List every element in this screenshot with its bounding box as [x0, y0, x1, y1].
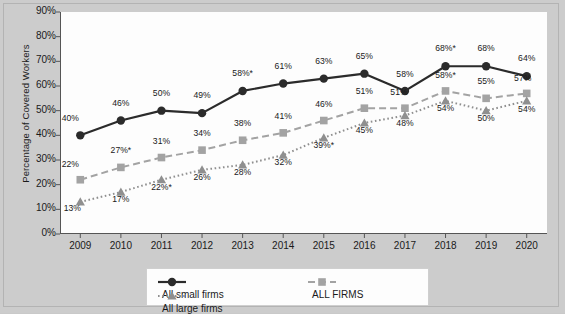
data-label: 61%	[275, 61, 292, 71]
data-label: 50%	[478, 113, 495, 123]
data-label: 46%	[112, 98, 129, 108]
data-label: 54%	[437, 103, 454, 113]
data-label: 50%	[153, 88, 170, 98]
data-point-marker	[482, 62, 490, 70]
legend-swatch	[307, 276, 337, 288]
data-label: 17%	[112, 194, 129, 204]
legend-label: ALL FIRMS	[312, 289, 363, 300]
data-point-marker	[198, 146, 206, 154]
data-point-marker	[320, 117, 328, 125]
data-point-marker	[117, 116, 125, 124]
chart-legend: All small firmsALL FIRMSAll large firms	[146, 268, 429, 306]
data-label: 58%	[396, 69, 413, 79]
data-label: 55%	[478, 76, 495, 86]
legend-item-all-firms[interactable]: ALL FIRMS	[307, 276, 363, 300]
data-label: 54%	[518, 104, 535, 114]
legend-item-all-large-firms[interactable]: All large firms	[157, 290, 223, 314]
series-line	[80, 66, 526, 135]
data-label: 41%	[275, 111, 292, 121]
legend-label: All large firms	[162, 303, 223, 314]
data-label: 34%	[193, 128, 210, 138]
series-all-large-firms	[76, 96, 532, 205]
data-label: 45%	[356, 125, 373, 135]
data-label: 38%	[234, 118, 251, 128]
data-point-marker	[279, 79, 287, 87]
data-point-marker	[361, 104, 369, 112]
data-label: 22%	[62, 159, 79, 169]
data-point-marker	[76, 131, 84, 139]
data-label: 68%*	[435, 43, 456, 53]
data-label: 68%	[478, 43, 495, 53]
data-label: 58%*	[435, 70, 456, 80]
data-label: 51%	[356, 86, 373, 96]
data-point-marker	[360, 69, 368, 77]
data-label: 48%	[396, 118, 413, 128]
data-label: 63%	[315, 56, 332, 66]
data-point-marker	[482, 95, 490, 103]
data-label: 51%	[390, 87, 407, 97]
data-point-marker	[442, 87, 450, 95]
series-line	[80, 101, 526, 202]
series-all-firms	[76, 87, 530, 183]
data-point-marker	[320, 74, 328, 82]
data-label: 49%	[193, 90, 210, 100]
legend-swatch	[157, 276, 187, 288]
data-label: 22%*	[151, 182, 172, 192]
series-all-small-firms	[76, 62, 531, 139]
data-point-marker	[117, 164, 125, 172]
data-point-marker	[239, 136, 247, 144]
data-label: 46%	[315, 99, 332, 109]
data-label: 27%*	[111, 145, 132, 155]
data-label: 13%	[64, 203, 81, 213]
data-point-marker	[76, 176, 84, 184]
data-label: 26%	[193, 172, 210, 182]
data-label: 58%*	[232, 68, 253, 78]
data-label: 31%	[153, 136, 170, 146]
data-point-marker	[523, 90, 531, 98]
data-label: 32%	[275, 157, 292, 167]
data-label: 39%*	[314, 140, 335, 150]
legend-swatch	[157, 290, 187, 302]
data-point-marker	[401, 104, 409, 112]
data-label: 28%	[234, 167, 251, 177]
data-point-marker	[157, 106, 165, 114]
data-label: 40%	[62, 113, 79, 123]
data-point-marker	[198, 109, 206, 117]
data-label: 64%	[518, 53, 535, 63]
data-label: 65%	[356, 51, 373, 61]
data-point-marker	[318, 278, 326, 286]
data-label: 57%	[514, 73, 531, 83]
data-point-marker	[168, 278, 176, 286]
data-point-marker	[279, 129, 287, 137]
data-point-marker	[238, 87, 246, 95]
data-point-marker	[158, 154, 166, 162]
